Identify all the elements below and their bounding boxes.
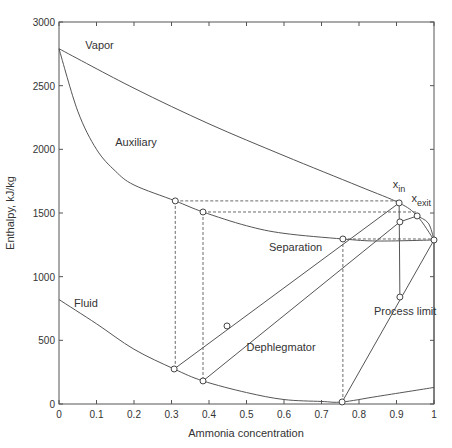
y-tick-label: 3000 <box>33 17 56 28</box>
y-tick-label: 500 <box>38 335 55 346</box>
y-axis-label: Enthalpy, kJ/kg <box>4 176 16 250</box>
tie-line <box>342 240 434 402</box>
x-tick-label: 0.2 <box>127 409 141 420</box>
y-tick-label: 1000 <box>33 272 56 283</box>
annotation-label: Auxiliary <box>115 136 157 148</box>
x-tick-label: 0.7 <box>315 409 329 420</box>
x-tick-label: 0.8 <box>352 409 366 420</box>
x-tick-label: 0.5 <box>240 409 254 420</box>
data-point-marker <box>171 366 177 372</box>
x-tick-label: 0.6 <box>277 409 291 420</box>
annotation-label: Fluid <box>74 297 98 309</box>
tie-lines <box>174 203 434 404</box>
x-tick-label: 0.9 <box>390 409 404 420</box>
x-tick-label: 0.3 <box>165 409 179 420</box>
annotation-label: Vapor <box>85 39 114 51</box>
tie-line <box>399 203 400 297</box>
x-tick-label: 0 <box>56 409 62 420</box>
annotation-subscript: exit <box>417 198 432 208</box>
axes: 00.10.20.30.40.50.60.70.80.9105001000150… <box>33 17 437 420</box>
enthalpy-concentration-chart: 00.10.20.30.40.50.60.70.80.9105001000150… <box>0 0 452 448</box>
data-point-marker <box>397 294 403 300</box>
data-point-marker <box>340 236 346 242</box>
annotation-subscript: in <box>398 184 405 194</box>
annotation-label: Dephlegmator <box>247 341 316 353</box>
y-tick-label: 0 <box>49 399 55 410</box>
y-tick-label: 2500 <box>33 81 56 92</box>
data-point-marker <box>339 399 345 405</box>
data-point-marker <box>397 219 403 225</box>
y-tick-label: 2000 <box>33 144 56 155</box>
data-point-marker <box>172 198 178 204</box>
data-point-marker <box>200 378 206 384</box>
data-point-marker <box>414 213 420 219</box>
x-tick-label: 0.1 <box>90 409 104 420</box>
annotation-label: Separation <box>269 241 322 253</box>
y-tick-label: 1500 <box>33 208 56 219</box>
x-tick-label: 0.4 <box>202 409 216 420</box>
data-point-marker <box>224 323 230 329</box>
data-point-marker <box>396 200 402 206</box>
data-point-marker <box>431 237 437 243</box>
data-point-marker <box>200 209 206 215</box>
annotation-label: xexit <box>412 192 432 208</box>
x-tick-label: 1 <box>431 409 437 420</box>
x-axis-label: Ammonia concentration <box>188 427 304 439</box>
annotation-label: xin <box>393 178 406 194</box>
annotation-label: Process limit <box>374 305 436 317</box>
